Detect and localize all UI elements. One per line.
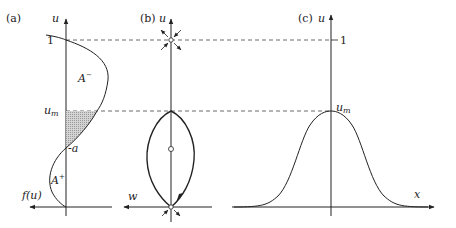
panel-b-label: (b) bbox=[140, 12, 156, 25]
diagram-root: (a) u f(u) 1 um -a A− A+ (b) u w bbox=[0, 0, 456, 228]
tick-um-label: um bbox=[44, 104, 59, 118]
tick-1-label: 1 bbox=[47, 34, 54, 47]
panel-a: (a) u f(u) 1 um -a A− A+ bbox=[6, 12, 112, 216]
panel-a-u-label: u bbox=[52, 12, 59, 25]
panel-c-x-label: x bbox=[414, 188, 421, 201]
panel-a-label: (a) bbox=[6, 12, 21, 25]
panel-c-u-label: u bbox=[318, 12, 325, 25]
panel-c-tick-1-label: 1 bbox=[340, 34, 347, 47]
region-a-plus-label: A+ bbox=[50, 173, 65, 187]
panel-c: (c) u x 1 um bbox=[232, 12, 434, 216]
panel-b: (b) u w bbox=[124, 12, 212, 222]
center-point bbox=[169, 147, 174, 152]
panel-c-label: (c) bbox=[298, 12, 313, 25]
panel-b-w-label: w bbox=[128, 190, 138, 203]
panel-b-u-label: u bbox=[159, 12, 166, 25]
panel-a-fu-label: f(u) bbox=[21, 189, 42, 202]
tick-a-label: -a bbox=[68, 142, 78, 155]
region-a-minus-label: A− bbox=[77, 71, 92, 85]
